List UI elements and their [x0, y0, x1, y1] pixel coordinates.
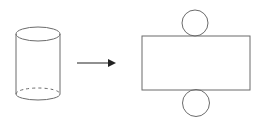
cylinder-top-ellipse — [16, 27, 60, 41]
arrow-head-icon — [108, 59, 116, 67]
net-lateral-rectangle — [142, 36, 250, 90]
cylinder-3d — [16, 27, 60, 100]
cylinder-bottom-front-arc — [16, 94, 60, 100]
cylinder-net — [142, 10, 250, 117]
net-top-circle — [182, 10, 208, 36]
cylinder-net-diagram — [0, 0, 264, 124]
cylinder-bottom-hidden-arc — [16, 88, 60, 94]
net-bottom-circle — [183, 90, 210, 117]
transform-arrow — [77, 59, 116, 67]
